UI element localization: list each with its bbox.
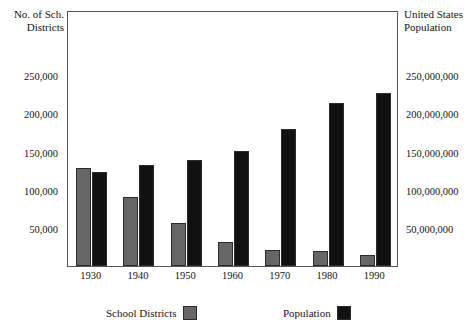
bar-population — [376, 93, 391, 266]
bar-school-districts — [360, 255, 375, 266]
chart-legend: School Districts Population — [67, 306, 398, 328]
x-axis-tick-labels: 1930194019501960197019801990 — [67, 269, 398, 285]
legend-label-school-districts: School Districts — [106, 306, 177, 320]
left-axis-tick-labels: 250,000200,000150,000100,00050,000 — [0, 11, 63, 267]
bar-population — [281, 129, 296, 266]
bar-school-districts — [76, 168, 91, 266]
right-axis-tick-labels: 250,000,000200,000,000150,000,000100,000… — [404, 11, 474, 267]
right-axis-tick: 50,000,000 — [404, 224, 475, 235]
x-axis-tick: 1930 — [66, 269, 116, 282]
bar-population — [234, 151, 249, 266]
bar-school-districts — [265, 250, 280, 266]
legend-item-population: Population — [283, 306, 351, 320]
x-axis-tick: 1970 — [255, 269, 305, 282]
bar-population — [329, 103, 344, 266]
left-axis-tick: 250,000 — [0, 71, 63, 82]
legend-item-school-districts: School Districts — [106, 306, 197, 320]
right-axis-tick: 100,000,000 — [404, 186, 475, 197]
bar-school-districts — [313, 251, 328, 266]
x-axis-tick: 1940 — [113, 269, 163, 282]
right-axis-tick: 250,000,000 — [404, 71, 475, 82]
x-axis-tick: 1950 — [160, 269, 210, 282]
bar-school-districts — [171, 223, 186, 266]
bar-population — [187, 160, 202, 266]
legend-swatch-population — [337, 306, 351, 320]
legend-swatch-school-districts — [183, 306, 197, 320]
bar-chart: No. of Sch. Districts United States Popu… — [0, 0, 475, 334]
right-axis-tick: 200,000,000 — [404, 109, 475, 120]
x-axis-tick: 1960 — [208, 269, 258, 282]
right-axis-tick: 150,000,000 — [404, 148, 475, 159]
x-axis-tick: 1990 — [349, 269, 399, 282]
bar-school-districts — [218, 242, 233, 266]
bar-population — [139, 165, 154, 266]
left-axis-tick: 100,000 — [0, 186, 63, 197]
left-axis-tick: 50,000 — [0, 224, 63, 235]
x-axis-tick: 1980 — [302, 269, 352, 282]
bar-population — [92, 172, 107, 266]
bar-school-districts — [123, 197, 138, 266]
left-axis-tick: 200,000 — [0, 109, 63, 120]
plot-area — [67, 11, 398, 267]
legend-label-population: Population — [283, 306, 331, 320]
left-axis-tick: 150,000 — [0, 148, 63, 159]
